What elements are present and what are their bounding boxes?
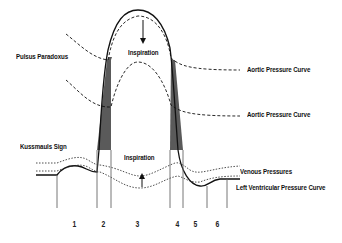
pressure-diagram — [0, 0, 342, 243]
kussmauls-sign-label: Kussmauls Sign — [20, 142, 67, 151]
venous-pressures-label: Venous Pressures — [240, 167, 292, 176]
phase-label-5: 5 — [193, 219, 197, 229]
phase-label-4: 4 — [175, 219, 179, 229]
phase-label-6: 6 — [215, 219, 219, 229]
left-ventricular-pressure-curve-label: Left Ventricular Pressure Curve — [236, 183, 325, 192]
aortic-pressure-curve-upper — [66, 16, 240, 70]
phase-label-1: 1 — [72, 219, 76, 229]
aortic-pressure-curve-lower — [66, 62, 240, 116]
inspiration-bottom-label: Inspiration — [124, 153, 155, 162]
phase-label-2: 2 — [101, 219, 105, 229]
venous-pressure-lower — [36, 165, 240, 188]
inspiration-top-label: Inspiration — [128, 48, 159, 57]
down-arrow-icon — [140, 20, 146, 44]
phase-label-3: 3 — [135, 219, 139, 229]
up-arrow-icon — [139, 173, 145, 187]
aortic-pressure-curve-label-2: Aortic Pressure Curve — [247, 110, 310, 119]
aortic-pressure-curve-label-1: Aortic Pressure Curve — [247, 65, 310, 74]
pulsus-paradoxus-label: Pulsus Paradoxus — [16, 52, 68, 61]
